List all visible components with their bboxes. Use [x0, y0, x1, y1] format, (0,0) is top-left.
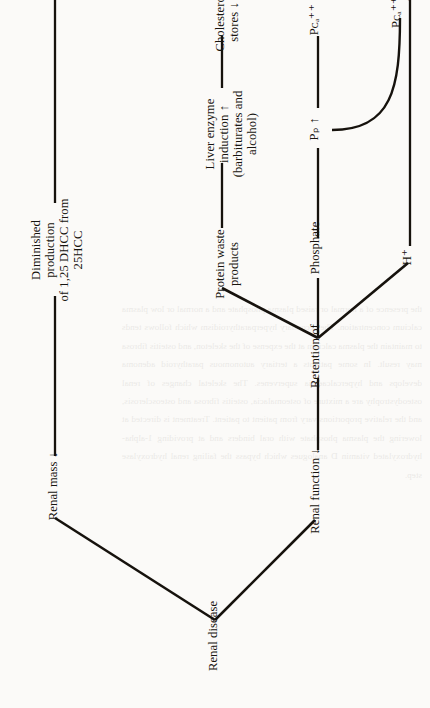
node-protein-waste-products: Protein waste products — [213, 220, 241, 308]
node-calcium-phosphate-product: Pᴄₐ⁺⁺ × Pₚ ↑ — [389, 0, 417, 32]
edge-renal-disease-to-renal-mass — [55, 518, 215, 620]
node-diminished-production: Diminished production of 1,25 DHCC from … — [29, 196, 85, 304]
node-phosphate: Phosphate — [308, 212, 322, 284]
flowchart-canvas: Renal disease Renal mass ↓ Diminished pr… — [0, 0, 430, 708]
node-p-phosphate: Pₚ ↑ — [307, 102, 321, 156]
node-renal-mass: Renal mass ↓ — [46, 450, 60, 522]
node-cholesterol-stores: Cholesterol stores ↓ — [213, 0, 241, 62]
node-renal-function: Renal function ↓ — [308, 442, 322, 540]
node-retention-of: Retention of — [308, 320, 322, 392]
node-hydrogen-ion: H⁺ — [400, 242, 414, 272]
edge-renal-disease-to-renal-function — [215, 520, 315, 620]
node-liver-enzyme-induction: Liver enzyme induction ↑ (barbiturates a… — [203, 76, 259, 192]
edge-pp-to-product-curve — [332, 18, 400, 130]
figure-page: the presence of a normal or raised plasm… — [0, 0, 430, 708]
node-renal-disease: Renal disease — [206, 586, 220, 686]
edge-retention-to-hplus — [318, 263, 408, 338]
rotated-diagram-container: Renal disease Renal mass ↓ Diminished pr… — [0, 0, 430, 708]
node-p-calcium: Pᴄₐ⁺⁺ ↓ — [307, 0, 321, 46]
